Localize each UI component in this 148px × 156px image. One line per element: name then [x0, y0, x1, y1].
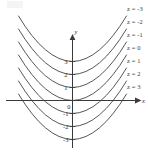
level-curve-figure: 3 2 1 0 -1 -2 -3 x y z = -3 z = -2 z = -…: [0, 0, 148, 156]
y-axis-label: y: [74, 28, 78, 35]
label-z-minus-2: z = -2: [127, 19, 143, 26]
y-tick-label-0: 0: [67, 103, 70, 110]
y-axis: [70, 34, 76, 148]
y-tick-label-2: 2: [64, 71, 67, 78]
label-z-0: z = 0: [127, 45, 141, 52]
label-z-minus-1: z = -1: [127, 32, 143, 39]
label-z-2: z = 2: [127, 71, 141, 78]
x-axis-label: x: [141, 97, 145, 104]
y-tick-label-1: 1: [64, 84, 67, 91]
x-axis-arrow-icon: [135, 98, 142, 104]
y-tick-label-m3: -3: [63, 136, 68, 143]
plot-canvas: 3 2 1 0 -1 -2 -3 x y: [0, 0, 148, 156]
label-z-1: z = 1: [127, 58, 141, 65]
y-tick-label-m2: -2: [63, 123, 68, 130]
label-z-minus-3: z = -3: [127, 6, 143, 13]
label-z-3: z = 3: [127, 84, 141, 91]
y-tick-label-3: 3: [64, 58, 67, 65]
y-tick-label-m1: -1: [63, 110, 68, 117]
